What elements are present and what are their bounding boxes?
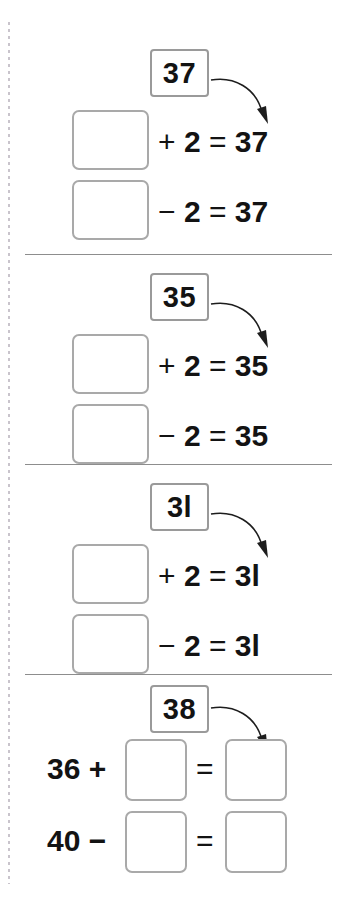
answer-box-2a[interactable] <box>72 334 149 394</box>
answer-box-2b[interactable] <box>72 404 149 464</box>
equation-text-1a: + 2 = 37 <box>158 127 268 157</box>
answer-box-3a[interactable] <box>72 544 149 604</box>
operator-3b: − <box>158 629 176 662</box>
equals-sign-4b: = <box>196 826 214 856</box>
operand-2b: 2 <box>184 419 201 452</box>
answer-box-4b-right[interactable] <box>225 811 287 873</box>
result-2b: 35 <box>235 419 268 452</box>
curved-arrow-icon-2 <box>208 292 278 354</box>
equals-1b: = <box>209 195 227 228</box>
given-number-box-3: 3l <box>150 483 209 531</box>
problem-section-2: 35 + 2 = 35 − 2 = 35 <box>0 254 353 464</box>
lead-value-4a: 36 <box>47 752 80 785</box>
operator-2b: − <box>158 419 176 452</box>
equation-text-2a: + 2 = 35 <box>158 351 268 381</box>
lead-number-4a: 36 + <box>47 754 106 784</box>
result-1a: 37 <box>235 125 268 158</box>
operator-1a: + <box>158 125 176 158</box>
curved-arrow-icon-1 <box>208 68 278 130</box>
operand-2a: 2 <box>184 349 201 382</box>
equation-text-2b: − 2 = 35 <box>158 421 268 451</box>
worksheet-page: 37 + 2 = 37 − 2 = 37 35 <box>0 0 353 909</box>
problem-section-1: 37 + 2 = 37 − 2 = 37 <box>0 0 353 254</box>
equals-2a: = <box>209 349 227 382</box>
operand-3a: 2 <box>184 559 201 592</box>
given-number-box-2: 35 <box>150 273 209 321</box>
answer-box-1b[interactable] <box>72 180 149 240</box>
lead-value-4b: 40 <box>47 824 80 857</box>
operator-4b: − <box>89 824 107 857</box>
problem-section-4: 38 36 + = 40 − = <box>0 674 353 909</box>
operator-3a: + <box>158 559 176 592</box>
equals-sign-4a: = <box>196 754 214 784</box>
result-1b: 37 <box>235 195 268 228</box>
problem-section-3: 3l + 2 = 3l − 2 = 3l <box>0 464 353 674</box>
operand-1a: 2 <box>184 125 201 158</box>
result-3a: 3l <box>235 559 260 592</box>
operand-3b: 2 <box>184 629 201 662</box>
given-number-value-3: 3l <box>167 493 192 522</box>
operator-4a: + <box>89 752 107 785</box>
equation-text-1b: − 2 = 37 <box>158 197 268 227</box>
operand-1b: 2 <box>184 195 201 228</box>
given-number-value-4: 38 <box>163 695 196 724</box>
answer-box-3b[interactable] <box>72 614 149 674</box>
equals-1a: = <box>209 125 227 158</box>
operator-2a: + <box>158 349 176 382</box>
answer-box-4a-left[interactable] <box>125 739 187 801</box>
curved-arrow-icon-3 <box>208 502 278 564</box>
result-2a: 35 <box>235 349 268 382</box>
equals-3a: = <box>209 559 227 592</box>
equation-text-3a: + 2 = 3l <box>158 561 260 591</box>
equals-3b: = <box>209 629 227 662</box>
equation-text-3b: − 2 = 3l <box>158 631 260 661</box>
given-number-value-1: 37 <box>163 59 196 88</box>
lead-number-4b: 40 − <box>47 826 106 856</box>
answer-box-1a[interactable] <box>72 110 149 170</box>
result-3b: 3l <box>235 629 260 662</box>
operator-1b: − <box>158 195 176 228</box>
equals-2b: = <box>209 419 227 452</box>
given-number-value-2: 35 <box>163 283 196 312</box>
answer-box-4b-left[interactable] <box>125 811 187 873</box>
given-number-box-4: 38 <box>150 685 209 733</box>
answer-box-4a-right[interactable] <box>225 739 287 801</box>
given-number-box-1: 37 <box>150 49 209 97</box>
